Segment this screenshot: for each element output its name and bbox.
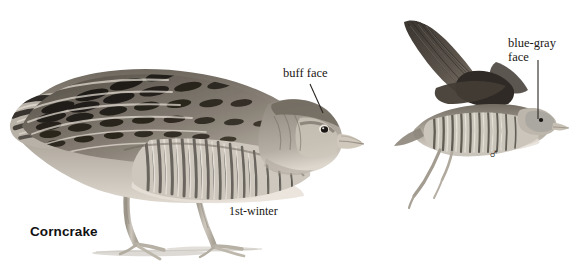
standing-bird-scapular-edge — [124, 144, 304, 176]
flying-bird-tail — [394, 128, 424, 146]
species-name: Corncrake — [30, 224, 98, 239]
flying-bird-head — [518, 108, 569, 135]
standing-bird-tail — [6, 88, 106, 158]
flying-bird-flank-barring — [420, 106, 550, 160]
annotation-blue-gray-face: blue-grayface — [508, 36, 556, 64]
standing-bird-head — [258, 99, 364, 175]
standing-bird-mantle-pattern — [14, 59, 314, 180]
buff-face-leader-line — [310, 84, 323, 113]
flying-bird-legs — [409, 150, 452, 208]
annotation-blue-gray-face-line2: face — [508, 50, 529, 64]
flying-bird-near-wing — [404, 20, 491, 106]
annotation-blue-gray-face-line1: blue-gray — [508, 36, 556, 50]
flying-bird-body — [413, 104, 549, 154]
standing-bird-body — [15, 69, 315, 203]
sex-symbol-male: ♂ — [488, 146, 499, 163]
annotation-buff-face: buff face — [283, 66, 328, 80]
flying-bird-far-wing — [490, 62, 528, 93]
standing-bird-near-leg — [120, 180, 164, 259]
flying-bird-wing-coverts — [435, 71, 514, 107]
standing-bird-far-leg — [196, 186, 244, 257]
annotation-age-1st-winter: 1st-winter — [229, 205, 278, 218]
standing-bird-flank-barring — [126, 132, 316, 208]
ground-shadow — [92, 246, 262, 256]
illustration-plate: buff face blue-grayface 1st-winter Cornc… — [0, 0, 580, 279]
